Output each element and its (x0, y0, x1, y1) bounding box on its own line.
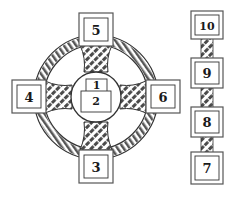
card-label-8: 8 (202, 115, 211, 130)
card-position-5[interactable]: 5 (79, 13, 113, 46)
card-label-1: 1 (93, 79, 101, 92)
card-position-3[interactable]: 3 (79, 150, 113, 183)
card-label-6: 6 (158, 90, 167, 105)
card-position-6[interactable]: 6 (146, 80, 180, 113)
card-label-4: 4 (24, 90, 33, 105)
card-label-3: 3 (91, 160, 100, 175)
card-position-1[interactable]: 1 (86, 79, 107, 93)
card-position-7[interactable]: 7 (191, 152, 223, 184)
card-label-2: 2 (92, 95, 100, 108)
card-label-7: 7 (202, 161, 211, 176)
card-label-10: 10 (199, 20, 215, 33)
card-position-10[interactable]: 10 (191, 11, 223, 39)
card-position-8[interactable]: 8 (191, 107, 223, 137)
card-label-5: 5 (91, 23, 100, 38)
card-position-9[interactable]: 9 (191, 58, 223, 88)
card-label-9: 9 (202, 66, 211, 81)
celtic-cross-diagram: 5 4 6 3 1 2 10 9 (0, 0, 230, 199)
card-position-2[interactable]: 2 (81, 91, 111, 112)
card-position-4[interactable]: 4 (12, 80, 46, 113)
